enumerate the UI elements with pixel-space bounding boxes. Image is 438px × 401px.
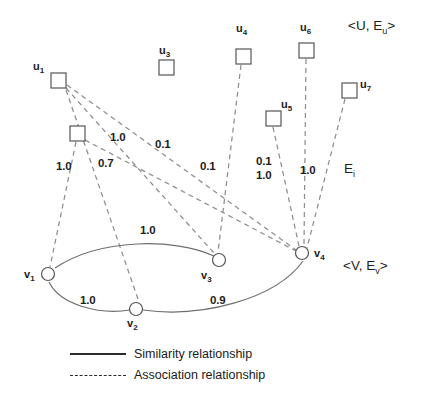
set-label-upper: <U, Eu> [348, 18, 395, 36]
node-label-u4: u4 [236, 22, 247, 37]
assoc-edge-u6-v4 [304, 59, 306, 246]
edge-weight-label: 1.0 [80, 294, 95, 306]
u-node-u4[interactable] [236, 49, 251, 64]
v-node-v4[interactable] [296, 247, 309, 260]
assoc-edge-u4-v3 [218, 65, 241, 252]
legend-label-association: Association relationship [134, 368, 265, 382]
set-label-lower: <V, Ev> [343, 258, 388, 276]
node-label-u3: u3 [159, 44, 170, 59]
u-node-u6[interactable] [299, 43, 314, 58]
node-label-u6: u6 [300, 21, 311, 36]
node-label-v2: v2 [127, 317, 138, 332]
assoc-edge-u1-v2 [66, 90, 139, 302]
edge-weight-label: 0.7 [98, 157, 113, 169]
edge-weight-label: 1.0 [56, 160, 71, 172]
edge-weight-label: 0.9 [210, 294, 225, 306]
v-node-v2[interactable] [130, 303, 143, 316]
u-node-u3[interactable] [159, 60, 174, 75]
figure-canvas: u1 u3 u4 u5 u6 u7 v1 v2 v3 v4 1.0 0.1 1.… [0, 0, 438, 401]
u-node-u5[interactable] [266, 111, 281, 126]
u-node-u2[interactable] [70, 126, 85, 141]
node-label-v3: v3 [201, 269, 212, 284]
graph-svg [0, 0, 438, 401]
edge-weight-label: 0.1 [155, 138, 170, 150]
set-label-middle: Ei [344, 161, 355, 179]
u-node-shapes [51, 43, 357, 141]
legend-label-similarity: Similarity relationship [134, 347, 252, 361]
node-label-u1: u1 [33, 60, 44, 75]
node-label-u7: u7 [360, 78, 371, 93]
node-label-v4: v4 [314, 247, 325, 262]
v-node-v1[interactable] [42, 268, 55, 281]
node-label-u5: u5 [281, 98, 292, 113]
association-edges [50, 59, 345, 302]
v-node-v3[interactable] [213, 254, 226, 267]
legend-item-association: Association relationship [70, 368, 265, 382]
u-node-u7[interactable] [342, 83, 357, 98]
edge-weight-label: 1.0 [300, 164, 315, 176]
node-label-v1: v1 [24, 268, 35, 283]
edge-weight-label: 0.1 [256, 155, 271, 167]
sim-edge-v1-v3 [55, 244, 214, 268]
assoc-edge-u5-v4 [273, 127, 299, 246]
legend-dashed-line-icon [70, 375, 126, 376]
edge-weight-label: 1.0 [110, 131, 125, 143]
u-node-u1[interactable] [51, 73, 66, 88]
edge-weight-label: 1.0 [256, 169, 271, 181]
legend-solid-line-icon [70, 353, 126, 355]
edge-weight-label: 0.1 [200, 160, 215, 172]
edge-weight-label: 1.0 [140, 224, 155, 236]
legend-item-similarity: Similarity relationship [70, 347, 252, 361]
